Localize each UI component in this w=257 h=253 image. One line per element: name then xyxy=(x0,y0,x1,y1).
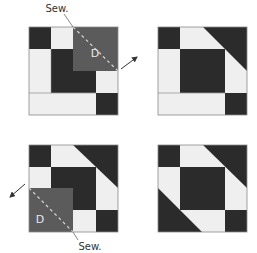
d-label-top: D xyxy=(91,47,99,60)
block-step-3: D Sew. xyxy=(10,145,118,252)
arrow-down-left-icon xyxy=(10,184,25,197)
d-label-bottom: D xyxy=(36,213,44,226)
block-step-1: D Sew. xyxy=(29,3,137,115)
sew-label-top: Sew. xyxy=(46,3,69,14)
block-step-2 xyxy=(158,27,247,115)
sew-label-bottom: Sew. xyxy=(79,241,102,252)
quilt-diagram: D Sew. D Sew. xyxy=(0,0,257,253)
arrow-up-right-icon xyxy=(121,57,137,69)
block-step-4 xyxy=(158,145,247,232)
